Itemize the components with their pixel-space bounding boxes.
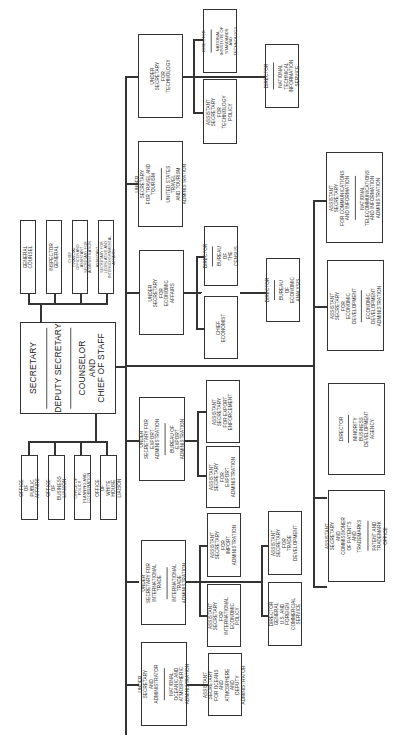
bea-box[interactable]: DIRECTOR BUREAU OF ECONOMIC ANALYSIS — [266, 258, 300, 322]
under-secretary-technology-box[interactable]: UNDER SECRETARY FOR TECHNOLOGY — [138, 34, 183, 118]
box-label: OFFICE OF PUBLIC AFFAIRS — [19, 478, 41, 498]
box-label: OFFICE OF WHITE HOUSE LIAISON — [95, 478, 122, 497]
box-label: OFFICE OF BUSINESS LIAISON — [46, 475, 68, 499]
box-title: ASSISTANT SECRETARY FOR IMPORT ADMINISTR… — [210, 525, 237, 565]
connector — [199, 545, 201, 616]
connector — [28, 441, 30, 455]
technology-policy-box[interactable]: ASSISTANT SECRETARY FOR TECHNOLOGY POLIC… — [203, 79, 237, 144]
box-subtitle: NATIONAL INSTITUTE OF STANDARDS AND TECH… — [215, 26, 238, 55]
box-subtitle: NATIONAL OCEANIC AND ATMOSPHERIC ADMINIS… — [169, 664, 191, 704]
box-subtitle: NATIONAL TELECOMMUNICATIONS AND INFORMAT… — [359, 170, 381, 226]
ntia-box[interactable]: ASSISTANT SECRETARY FOR COMMUNICATIONS A… — [326, 152, 383, 243]
international-economic-policy-box[interactable]: ASSISTANT SECRETARY FOR INTERNATIONAL EC… — [207, 584, 241, 647]
connector — [106, 294, 108, 304]
box-title: DIRECTOR — [265, 277, 270, 303]
connector — [313, 200, 327, 202]
box-title: UNDER SECRETARY FOR TRAVEL AND TOURISM — [134, 164, 156, 204]
connector — [184, 292, 201, 294]
box-subtitle: INTERNATIONAL TRADE ADMINISTRATION — [171, 562, 187, 602]
connector — [185, 581, 262, 583]
under-secretary-trade-box[interactable]: UNDER SECRETARY FOR INTERNATIONAL TRADE … — [141, 540, 186, 625]
box-subtitle: NATIONAL TECHNICAL INFORMATION SERVICE — [278, 60, 300, 93]
box-title: UNDER SECRETARY FOR ECONOMIC AFFAIRS — [148, 278, 175, 307]
box-title: ASSISTANT SECRETARY FOR OCEANS AND ATMOS… — [203, 665, 246, 704]
deputy-secretary-title: DEPUTY SECRETARY — [54, 323, 64, 412]
connector — [40, 303, 42, 323]
nist-box[interactable]: DIRECTOR NATIONAL INSTITUTE OF STANDARDS… — [203, 9, 237, 73]
white-house-liaison-box[interactable]: OFFICE OF WHITE HOUSE LIAISON — [100, 455, 117, 520]
box-title: ASSISTANT SECRETARY FOR TRADE DEVELOPMEN… — [271, 525, 298, 561]
policy-planning-box[interactable]: OFFICE OF POLICY PLANNING AND COORDINATI… — [74, 455, 91, 520]
connector — [80, 294, 82, 304]
box-title: ASSISTANT SECRETARY AND COMMISSIONER OF … — [325, 517, 363, 555]
box-title: ASSISTANT SECRETARY FOR TECHNOLOGY POLIC… — [206, 95, 233, 128]
box-subtitle: PATENT AND TRADEMARK OFFICE — [372, 517, 388, 555]
connector — [125, 76, 139, 78]
connector — [313, 306, 327, 308]
legislative-affairs-box[interactable]: ASSISTANT SECRETARY FOR LEGISLATIVE AND … — [98, 220, 114, 294]
box-title: DIRECTOR — [202, 26, 207, 55]
connector — [185, 440, 197, 442]
box-title: ASSISTANT SECRETARY FOR ECONOMIC DEVELOP… — [329, 285, 356, 325]
under-secretary-economic-box[interactable]: UNDER SECRETARY FOR ECONOMIC AFFAIRS — [139, 250, 184, 335]
mbda-box[interactable]: DIRECTOR MINORITY BUSINESS DEVELOPMENT A… — [328, 383, 385, 475]
census-box[interactable]: DIRECTOR BUREAU OF THE CENSUS — [204, 226, 238, 286]
box-title: UNDER SECRETARY AND ADMINISTRATOR — [138, 664, 160, 704]
oceans-deputy-box[interactable]: ASSISTANT SECRETARY FOR OCEANS AND ATMOS… — [208, 653, 242, 716]
connector — [200, 292, 202, 293]
connector — [193, 39, 195, 113]
box-title: DIRECTOR — [338, 411, 343, 447]
connector — [199, 545, 207, 547]
connector — [313, 586, 327, 588]
connector — [125, 292, 139, 294]
box-subtitle: BUREAU OF ECONOMIC ANALYSIS — [279, 277, 301, 303]
connector — [197, 411, 199, 475]
connector — [204, 292, 240, 294]
box-title: ASSISTANT SECRETARY FOR COMMUNICATIONS A… — [328, 170, 350, 226]
box-title: ASSISTANT SECRETARY FOR EXPORT ENFORCEME… — [212, 393, 234, 430]
box-title: UNDER SECRETARY FOR EXPORT ADMINISTRATIO… — [139, 419, 161, 459]
connector — [125, 440, 139, 442]
box-subtitle: BUREAU OF THE CENSUS — [217, 244, 239, 269]
ntis-box[interactable]: DIRECTOR NATIONAL TECHNICAL INFORMATION … — [265, 44, 299, 108]
box-title: DIRECTOR GENERAL U.S. AND FOREIGN COMMER… — [269, 598, 301, 630]
box-subtitle: UNITED STATES TRAVEL AND TOURISM ADMINIS… — [165, 164, 187, 204]
general-counsel-box[interactable]: GENERAL COUNSEL — [20, 220, 36, 294]
export-administration-box[interactable]: ASSISTANT SECRETARY FOR EXPORT ADMINISTR… — [206, 446, 240, 508]
pto-box[interactable]: ASSISTANT SECRETARY AND COMMISSIONER OF … — [328, 490, 385, 582]
secretary-title: SECRETARY — [29, 323, 39, 412]
eda-box[interactable]: ASSISTANT SECRETARY FOR ECONOMIC DEVELOP… — [327, 260, 384, 351]
box-title: CHIEF ECONOMIST — [216, 313, 227, 342]
under-secretary-export-box[interactable]: UNDER SECRETARY FOR EXPORT ADMINISTRATIO… — [139, 397, 185, 481]
box-label: INSPECTOR GENERAL — [49, 243, 60, 271]
box-title: ASSISTANT SECRETARY FOR EXPORT ADMINISTR… — [209, 457, 236, 497]
connector — [125, 581, 139, 583]
box-label: GENERAL COUNSEL — [23, 246, 34, 269]
box-title: UNDER SECRETARY FOR INTERNATIONAL TRADE — [140, 562, 162, 602]
commercial-service-box[interactable]: DIRECTOR GENERAL U.S. AND FOREIGN COMMER… — [268, 582, 302, 646]
public-affairs-box[interactable]: OFFICE OF PUBLIC AFFAIRS — [21, 455, 38, 520]
box-subtitle: MINORITY BUSINESS DEVELOPMENT AGENCY — [353, 411, 375, 447]
connector — [28, 294, 30, 304]
connector — [193, 112, 203, 114]
box-title: DIRECTOR — [203, 244, 208, 269]
business-liaison-box[interactable]: OFFICE OF BUSINESS LIAISON — [48, 455, 65, 520]
connector — [313, 200, 315, 587]
box-title: ASSISTANT SECRETARY FOR INTERNATIONAL EC… — [208, 597, 240, 635]
inspector-general-box[interactable]: INSPECTOR GENERAL — [46, 220, 62, 294]
chief-economist-box[interactable]: CHIEF ECONOMIST — [204, 296, 238, 359]
cfo-box[interactable]: CHIEF FINANCIAL OFFICER AND ASSISTANT SE… — [72, 220, 88, 294]
export-enforcement-box[interactable]: ASSISTANT SECRETARY FOR EXPORT ENFORCEME… — [206, 380, 240, 443]
connector — [197, 475, 206, 477]
connector — [197, 411, 206, 413]
under-secretary-travel-box[interactable]: UNDER SECRETARY FOR TRAVEL AND TOURISM U… — [138, 141, 183, 227]
under-secretary-noaa-box[interactable]: UNDER SECRETARY AND ADMINISTRATOR NATION… — [141, 642, 187, 726]
import-administration-box[interactable]: ASSISTANT SECRETARY FOR IMPORT ADMINISTR… — [207, 513, 241, 577]
connector — [54, 294, 56, 304]
box-subtitle: ECONOMIC DEVELOPMENT ADMINISTRATION — [365, 285, 381, 325]
box-label: OFFICE OF POLICY PLANNING AND COORDINATI… — [74, 472, 92, 502]
trade-development-box[interactable]: ASSISTANT SECRETARY FOR TRADE DEVELOPMEN… — [268, 511, 302, 575]
box-label: ASSISTANT SECRETARY FOR LEGISLATIVE AND … — [96, 236, 116, 278]
connector — [54, 441, 56, 455]
secretary-box[interactable]: SECRETARY DEPUTY SECRETARY COUNSELOR AND… — [20, 322, 116, 414]
